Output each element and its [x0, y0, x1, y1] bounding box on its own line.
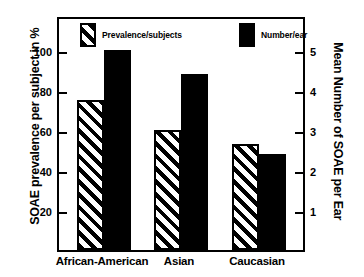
- y-tick-label-left-40: 40: [12, 167, 52, 178]
- y-tick-label-left-80: 80: [12, 87, 52, 98]
- y-tick-left-80: [59, 92, 67, 94]
- y-tick-right-3: [295, 132, 303, 134]
- y-tick-label-right-2: 2: [310, 167, 350, 178]
- chart-figure: SOAE prevalence per subject in % Mean Nu…: [0, 0, 364, 277]
- y-tick-label-left-60: 60: [12, 127, 52, 138]
- x-category-label-asian: Asian: [139, 256, 219, 268]
- x-category-label-caucasian: Caucasian: [212, 256, 302, 268]
- legend-item-number: Number/ear: [239, 23, 307, 47]
- bar-number-asian: [181, 74, 208, 250]
- bar-prevalence-caucasian: [232, 144, 259, 250]
- bar-number-caucasian: [259, 154, 286, 250]
- legend-swatch-hatched-icon: [80, 23, 96, 47]
- legend-swatch-solid-icon: [239, 23, 255, 47]
- y-tick-right-1: [295, 212, 303, 214]
- y-tick-label-right-5: 5: [310, 47, 350, 58]
- y-tick-label-right-3: 3: [310, 127, 350, 138]
- y-tick-right-5: [295, 52, 303, 54]
- legend-label-number: Number/ear: [261, 31, 307, 40]
- y-tick-label-left-100: 100: [12, 47, 52, 58]
- y-tick-left-100: [59, 52, 67, 54]
- legend-item-prevalence: Prevalence/subjects: [80, 23, 182, 47]
- bar-prevalence-asian: [154, 130, 181, 250]
- plot-area: Prevalence/subjects Number/ear: [57, 17, 305, 252]
- y-tick-right-4: [295, 92, 303, 94]
- y-tick-label-left-20: 20: [12, 207, 52, 218]
- y-tick-right-2: [295, 172, 303, 174]
- y-tick-left-60: [59, 132, 67, 134]
- bar-number-african-american: [104, 50, 131, 250]
- y-tick-label-right-4: 4: [310, 87, 350, 98]
- legend-label-prevalence: Prevalence/subjects: [102, 31, 182, 40]
- y-tick-left-40: [59, 172, 67, 174]
- y-tick-label-right-1: 1: [310, 207, 350, 218]
- bar-prevalence-african-american: [77, 100, 104, 250]
- y-tick-left-20: [59, 212, 67, 214]
